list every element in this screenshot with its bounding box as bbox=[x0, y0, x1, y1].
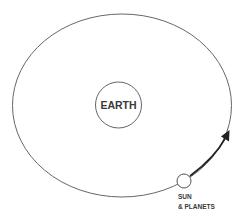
geocentric-diagram: EARTH SUN & PLANETS bbox=[0, 0, 248, 222]
planets-label: & PLANETS bbox=[178, 203, 216, 210]
orbit-direction-arrow bbox=[190, 137, 226, 176]
earth-label: EARTH bbox=[100, 99, 136, 111]
sun-circle bbox=[177, 174, 191, 188]
sun-label: SUN bbox=[178, 193, 192, 200]
